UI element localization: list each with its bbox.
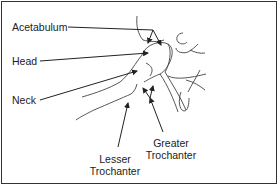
label-greater-trochanter: Greater Trochanter	[138, 137, 204, 161]
leader-lines	[40, 27, 163, 147]
label-neck: Neck	[12, 94, 36, 106]
femur-outline	[76, 55, 186, 120]
label-lesser-trochanter-line2: Trochanter	[82, 165, 148, 177]
label-greater-trochanter-line1: Greater	[138, 137, 204, 149]
femoral-head	[142, 42, 172, 74]
label-acetabulum: Acetabulum	[12, 21, 67, 33]
label-head: Head	[12, 55, 37, 67]
label-greater-trochanter-line2: Trochanter	[138, 149, 204, 161]
